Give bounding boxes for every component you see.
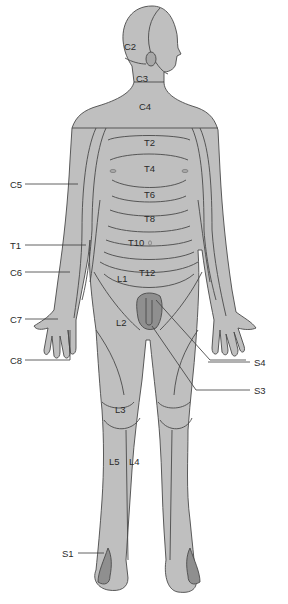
label-c5: C5: [10, 179, 22, 190]
label-l5: L5: [109, 456, 120, 467]
label-c8: C8: [10, 355, 22, 366]
body-silhouette: [34, 6, 256, 592]
label-t8: T8: [144, 213, 155, 224]
label-l1: L1: [117, 273, 128, 284]
dermatome-diagram: C2 C3 C4 T2 T4 T6 T8 T10 T12 C5 T1 C6 C7…: [0, 0, 288, 604]
label-t6: T6: [144, 189, 155, 200]
label-t4: T4: [144, 163, 155, 174]
label-t2: T2: [144, 137, 155, 148]
label-l3: L3: [115, 404, 126, 415]
label-c2: C2: [124, 41, 136, 52]
label-s3: S3: [254, 385, 266, 396]
label-c4: C4: [139, 101, 151, 112]
label-s4: S4: [254, 357, 266, 368]
label-c7: C7: [10, 314, 22, 325]
label-c3: C3: [136, 73, 148, 84]
label-l2: L2: [116, 317, 127, 328]
label-l4: L4: [129, 456, 140, 467]
label-s1: S1: [62, 548, 74, 559]
label-c6: C6: [10, 267, 22, 278]
label-t12: T12: [139, 267, 155, 278]
label-t10: T10: [128, 237, 144, 248]
label-t1: T1: [10, 240, 21, 251]
